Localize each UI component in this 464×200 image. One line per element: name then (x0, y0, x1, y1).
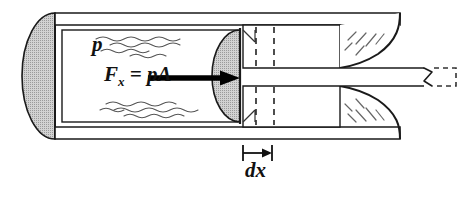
force-equation-label: Fx = pA (104, 64, 172, 88)
force-subscript: x (118, 74, 125, 89)
dx-element-lower (243, 86, 340, 127)
fluid-jet (340, 68, 424, 86)
jet-break-symbol (424, 68, 432, 86)
pressure-label: p (92, 34, 103, 55)
jet-dashed-continuation (434, 68, 456, 86)
cylinder-top-wall (55, 13, 400, 25)
force-symbol: F (104, 62, 118, 86)
nozzle-hatch-lower (345, 99, 384, 122)
dx-label: dx (245, 160, 266, 181)
cylinder-bottom-wall (55, 127, 400, 139)
dx-element-upper (243, 25, 340, 68)
left-end-cap (22, 13, 55, 139)
force-equation-rhs: = pA (130, 62, 172, 86)
diagram-svg (0, 0, 464, 200)
figure-container: p Fx = pA dx (0, 0, 464, 200)
